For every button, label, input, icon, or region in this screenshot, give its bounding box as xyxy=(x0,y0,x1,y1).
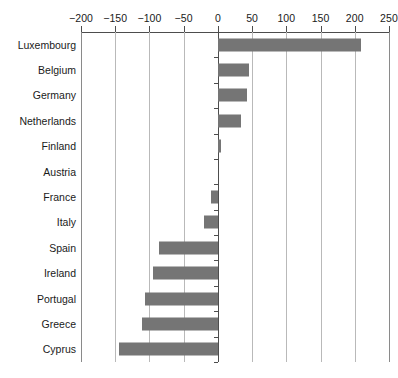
bar-netherlands xyxy=(218,114,241,127)
gridline-200 xyxy=(355,32,356,362)
row-tick-2 xyxy=(214,108,218,109)
gridline--200 xyxy=(81,32,82,362)
category-label-netherlands: Netherlands xyxy=(3,115,81,127)
x-tick-label--150: −150 xyxy=(103,12,127,24)
x-tick-label-250: 250 xyxy=(380,12,398,24)
bar-cyprus xyxy=(119,343,218,356)
row-tick-12 xyxy=(214,362,218,363)
bar-greece xyxy=(142,317,218,330)
x-tick-label--100: −100 xyxy=(137,12,161,24)
row-tick-3 xyxy=(214,134,218,135)
bar-belgium xyxy=(218,64,249,77)
row-tick-1 xyxy=(214,83,218,84)
category-label-cyprus: Cyprus xyxy=(3,343,81,355)
row-tick-8 xyxy=(214,260,218,261)
x-tick-100 xyxy=(286,26,287,32)
x-tick-label-0: 0 xyxy=(215,12,221,24)
x-tick-label-100: 100 xyxy=(277,12,295,24)
gridline--100 xyxy=(149,32,150,362)
category-label-belgium: Belgium xyxy=(3,64,81,76)
category-label-austria: Austria xyxy=(3,166,81,178)
row-tick-9 xyxy=(214,286,218,287)
gridline-50 xyxy=(252,32,253,362)
x-tick--200 xyxy=(81,26,82,32)
bar-luxembourg xyxy=(218,38,361,51)
x-tick-150 xyxy=(321,26,322,32)
bar-italy xyxy=(204,216,218,229)
x-tick-0 xyxy=(218,26,219,32)
row-tick-10 xyxy=(214,311,218,312)
bar-portugal xyxy=(145,292,218,305)
gridline-150 xyxy=(321,32,322,362)
category-label-finland: Finland xyxy=(3,140,81,152)
bar-germany xyxy=(218,89,247,102)
x-tick--50 xyxy=(184,26,185,32)
gridline-0 xyxy=(218,32,219,362)
row-tick-5 xyxy=(214,184,218,185)
bar-france xyxy=(211,191,218,204)
x-tick-200 xyxy=(355,26,356,32)
category-label-luxembourg: Luxembourg xyxy=(3,39,81,51)
row-tick-0 xyxy=(214,57,218,58)
category-label-portugal: Portugal xyxy=(3,293,81,305)
bar-spain xyxy=(159,241,218,254)
category-label-france: France xyxy=(3,191,81,203)
row-tick-4 xyxy=(214,159,218,160)
x-tick--100 xyxy=(149,26,150,32)
category-label-greece: Greece xyxy=(3,318,81,330)
category-label-spain: Spain xyxy=(3,242,81,254)
row-tick-7 xyxy=(214,235,218,236)
x-tick-label-50: 50 xyxy=(246,12,258,24)
gridline--50 xyxy=(184,32,185,362)
gridline-100 xyxy=(286,32,287,362)
category-label-italy: Italy xyxy=(3,216,81,228)
row-tick-6 xyxy=(214,210,218,211)
x-tick-label--200: −200 xyxy=(69,12,93,24)
x-tick-50 xyxy=(252,26,253,32)
x-tick-label-200: 200 xyxy=(346,12,364,24)
category-label-germany: Germany xyxy=(3,89,81,101)
gridline--150 xyxy=(115,32,116,362)
category-label-ireland: Ireland xyxy=(3,267,81,279)
gridline-250 xyxy=(389,32,390,362)
x-tick--150 xyxy=(115,26,116,32)
category-axis: LuxembourgBelgiumGermanyNetherlandsFinla… xyxy=(0,0,81,378)
x-tick-250 xyxy=(389,26,390,32)
bar-ireland xyxy=(153,267,218,280)
x-tick-label--50: −50 xyxy=(175,12,193,24)
bar-finland xyxy=(218,140,221,153)
x-tick-label-150: 150 xyxy=(312,12,330,24)
plot-area xyxy=(81,32,389,362)
row-tick-11 xyxy=(214,337,218,338)
